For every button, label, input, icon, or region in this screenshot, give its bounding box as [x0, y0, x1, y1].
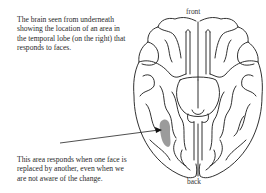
bottom-caption: This area responds when one face is repl…	[17, 155, 147, 183]
bottom-caption-line: replaced by another, even when we	[17, 164, 147, 173]
bottom-caption-line: This area responds when one face is	[17, 155, 147, 164]
pointer-arrow-line	[60, 130, 159, 143]
bottom-caption-line: are not aware of the change.	[17, 174, 147, 183]
face-area-highlight	[160, 120, 171, 147]
back-label: back	[187, 177, 201, 186]
